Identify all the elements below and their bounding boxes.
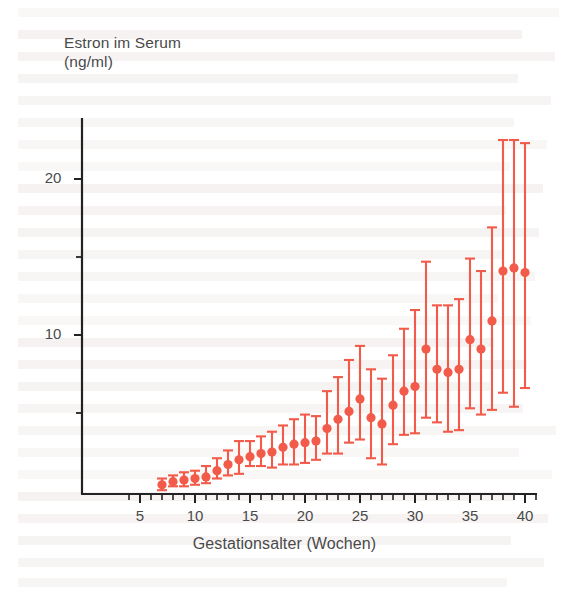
data-point-group xyxy=(157,479,167,491)
x-axis-tick-label: 35 xyxy=(453,507,487,524)
data-point-group xyxy=(190,471,200,485)
data-point-marker xyxy=(267,447,276,456)
data-point-marker xyxy=(322,424,331,433)
x-axis-tick-label: 40 xyxy=(508,507,542,524)
data-point-group xyxy=(509,140,519,407)
data-point-group xyxy=(267,432,277,468)
data-point-group xyxy=(245,441,255,466)
data-point-marker xyxy=(355,394,364,403)
data-point-marker xyxy=(201,472,210,481)
data-point-marker xyxy=(509,263,518,272)
data-point-marker xyxy=(168,477,177,486)
data-point-marker xyxy=(179,475,188,484)
x-axis-tick-label: 20 xyxy=(288,507,322,524)
data-point-marker xyxy=(212,466,221,475)
data-point-marker xyxy=(245,452,254,461)
chart-figure: Estron im Serum(ng/ml) 10205101520253035… xyxy=(0,0,569,594)
data-point-group xyxy=(476,271,486,415)
data-point-marker xyxy=(443,368,452,377)
data-point-marker xyxy=(465,335,474,344)
x-axis-tick-label: 25 xyxy=(343,507,377,524)
data-point-marker xyxy=(157,480,166,489)
y-axis-tick-label: 20 xyxy=(36,169,70,186)
x-axis-tick-label: 10 xyxy=(178,507,212,524)
data-point-group xyxy=(311,416,321,460)
data-point-marker xyxy=(399,387,408,396)
data-point-marker xyxy=(289,440,298,449)
data-point-group xyxy=(520,143,530,388)
data-point-marker xyxy=(421,344,430,353)
data-point-group xyxy=(498,140,508,393)
data-point-marker xyxy=(190,474,199,483)
data-point-marker xyxy=(498,266,507,275)
data-point-group xyxy=(377,379,387,465)
data-point-group xyxy=(443,305,453,431)
data-point-group xyxy=(399,329,409,435)
data-point-marker xyxy=(256,449,265,458)
data-point-marker xyxy=(520,268,529,277)
data-point-group xyxy=(212,458,222,478)
data-point-group xyxy=(432,305,442,422)
x-axis-tick-label: 5 xyxy=(123,507,157,524)
data-point-marker xyxy=(388,401,397,410)
plot-area xyxy=(0,0,569,594)
data-point-marker xyxy=(366,413,375,422)
data-point-marker xyxy=(300,438,309,447)
data-point-group xyxy=(322,391,332,453)
y-axis-tick-label: 10 xyxy=(36,325,70,342)
data-point-marker xyxy=(410,382,419,391)
data-point-group xyxy=(465,259,475,409)
data-point-marker xyxy=(454,365,463,374)
data-point-group xyxy=(168,475,178,486)
data-point-marker xyxy=(223,460,232,469)
data-point-group xyxy=(454,299,464,430)
data-point-group xyxy=(223,450,233,475)
data-point-marker xyxy=(333,415,342,424)
data-point-marker xyxy=(487,316,496,325)
data-point-marker xyxy=(344,407,353,416)
data-point-group xyxy=(201,466,211,483)
data-point-group xyxy=(421,262,431,418)
data-point-marker xyxy=(311,436,320,445)
data-point-marker xyxy=(278,443,287,452)
data-point-group xyxy=(289,419,299,464)
x-axis-tick-label: 30 xyxy=(398,507,432,524)
data-point-marker xyxy=(432,365,441,374)
data-point-group xyxy=(256,436,266,466)
data-point-group xyxy=(234,441,244,474)
data-point-marker xyxy=(476,344,485,353)
data-point-marker xyxy=(377,419,386,428)
data-point-group xyxy=(300,415,310,463)
data-point-group xyxy=(388,355,398,444)
data-point-group xyxy=(410,310,420,433)
data-point-group xyxy=(278,425,288,464)
x-axis-title: Gestationsalter (Wochen) xyxy=(0,534,569,553)
data-point-group xyxy=(366,369,376,458)
data-point-group xyxy=(333,377,343,453)
data-point-group xyxy=(355,346,365,440)
data-point-group xyxy=(487,227,497,410)
data-point-marker xyxy=(234,455,243,464)
x-axis-tick-label: 15 xyxy=(233,507,267,524)
data-point-group xyxy=(344,360,354,443)
data-point-group xyxy=(179,472,189,486)
